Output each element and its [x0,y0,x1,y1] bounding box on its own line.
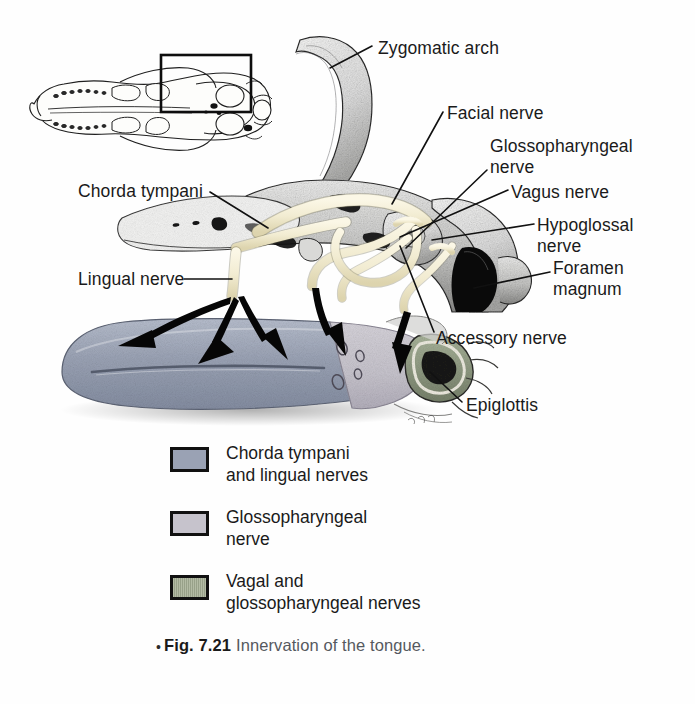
legend-swatch-glossopharyngeal [170,511,209,536]
label-vagus-nerve: Vagus nerve [511,182,609,203]
pterygoid-hamulus [299,238,323,261]
legend-item: Chorda tympani and lingual nerves [170,443,590,486]
zygomatic-arch [296,37,372,196]
legend: Chorda tympani and lingual nerves Glosso… [170,443,590,635]
legend-label: Vagal and glossopharyngeal nerves [226,571,421,614]
legend-label: Glossopharyngeal nerve [226,507,367,550]
label-lingual-nerve: Lingual nerve [78,269,184,290]
skull-inset [30,55,272,150]
legend-swatch-vagal-glossopharyngeal [170,575,209,600]
legend-item: Glossopharyngeal nerve [170,507,590,550]
label-foramen-magnum: Foramen magnum [553,258,624,300]
caption-text: Innervation of the tongue. [236,636,426,654]
legend-item: Vagal and glossopharyngeal nerves [170,571,590,614]
figure-caption: •Fig. 7.21Innervation of the tongue. [156,636,426,655]
label-chorda-tympani: Chorda tympani [78,181,203,202]
legend-label: Chorda tympani and lingual nerves [226,443,368,486]
caption-bullet: • [156,639,161,655]
label-zygomatic-arch: Zygomatic arch [378,38,499,59]
tongue [60,316,498,426]
label-hypoglossal-nerve: Hypoglossal nerve [537,215,633,257]
label-glossopharyngeal-nerve: Glossopharyngeal nerve [490,136,633,178]
tongue-anterior [62,319,356,410]
legend-swatch-chorda-lingual [170,447,209,472]
leader-facial-nerve [392,112,443,204]
label-epiglottis: Epiglottis [466,395,538,416]
figure-page: Zygomatic arch Facial nerve Glossopharyn… [0,0,695,704]
label-accessory-nerve: Accessory nerve [436,328,567,349]
label-facial-nerve: Facial nerve [447,103,544,124]
caption-figure-number: Fig. 7.21 [164,636,231,654]
